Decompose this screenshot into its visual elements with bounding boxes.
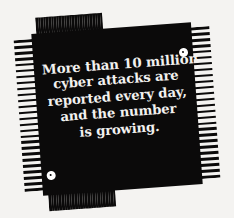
chip-message: More than 10 million cyber attacks are r…	[41, 51, 193, 144]
chip-infographic: More than 10 million cyber attacks are r…	[0, 0, 234, 218]
chip-assembly: More than 10 million cyber attacks are r…	[31, 22, 202, 195]
